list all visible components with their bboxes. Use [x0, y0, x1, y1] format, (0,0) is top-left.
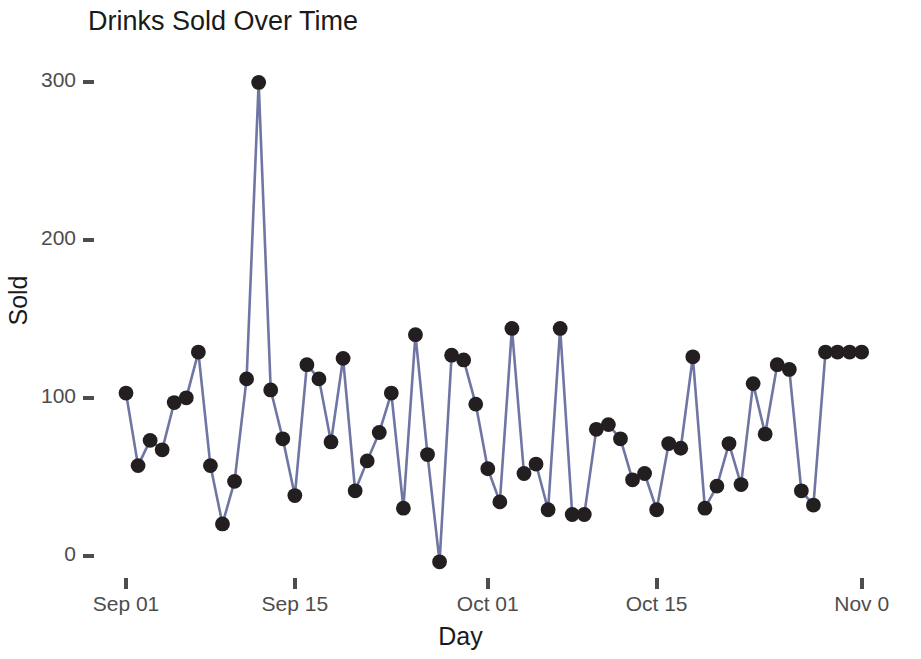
data-point [722, 436, 737, 451]
data-point [468, 397, 483, 412]
data-point [794, 483, 809, 498]
data-point [312, 371, 327, 386]
data-point [758, 427, 773, 442]
data-point [384, 386, 399, 401]
data-point [710, 479, 725, 494]
plot-area [0, 0, 921, 659]
data-point [239, 371, 254, 386]
data-point [492, 494, 507, 509]
data-point [203, 458, 218, 473]
data-point [577, 507, 592, 522]
data-point [179, 390, 194, 405]
data-point [685, 349, 700, 364]
data-point [408, 327, 423, 342]
right-edge-clip [903, 580, 921, 625]
data-point [746, 376, 761, 391]
data-point [637, 466, 652, 481]
data-point [456, 353, 471, 368]
data-point [541, 502, 556, 517]
data-point [251, 75, 266, 90]
data-point [300, 357, 315, 372]
data-point [529, 457, 544, 472]
data-line [126, 82, 862, 561]
data-point [420, 447, 435, 462]
data-point [155, 442, 170, 457]
data-point [143, 433, 158, 448]
data-point [782, 362, 797, 377]
data-point [227, 474, 242, 489]
data-point [324, 435, 339, 450]
data-point [215, 517, 230, 532]
data-point [336, 351, 351, 366]
data-point [131, 458, 146, 473]
data-point [649, 502, 664, 517]
data-point [480, 461, 495, 476]
data-point [806, 498, 821, 513]
data-point [697, 501, 712, 516]
data-point [372, 425, 387, 440]
data-point [348, 483, 363, 498]
data-point [517, 466, 532, 481]
data-point [275, 431, 290, 446]
data-point [263, 383, 278, 398]
data-point [119, 386, 134, 401]
data-point [505, 321, 520, 336]
data-point [734, 477, 749, 492]
data-point [432, 554, 447, 569]
data-point [854, 345, 869, 360]
data-point [360, 453, 375, 468]
data-point [613, 431, 628, 446]
data-point [601, 417, 616, 432]
data-point [287, 488, 302, 503]
data-point [553, 321, 568, 336]
data-point [396, 501, 411, 516]
data-point [191, 345, 206, 360]
chart-container: Drinks Sold Over Time Sold Day 010020030… [0, 0, 921, 659]
data-point [673, 441, 688, 456]
